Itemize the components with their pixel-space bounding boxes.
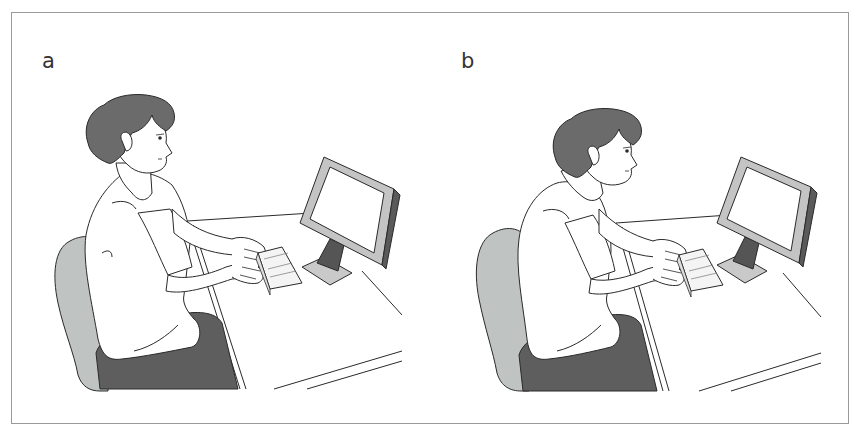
panel-b: b [431,13,850,425]
monitor [717,157,817,283]
illustration-upright-posture [12,13,431,425]
keyboard [677,249,723,297]
illustration-forward-posture [431,13,850,425]
eye [625,149,629,153]
figure-frame: a [11,12,849,424]
panel-a: a [12,13,431,425]
eye [158,136,162,140]
